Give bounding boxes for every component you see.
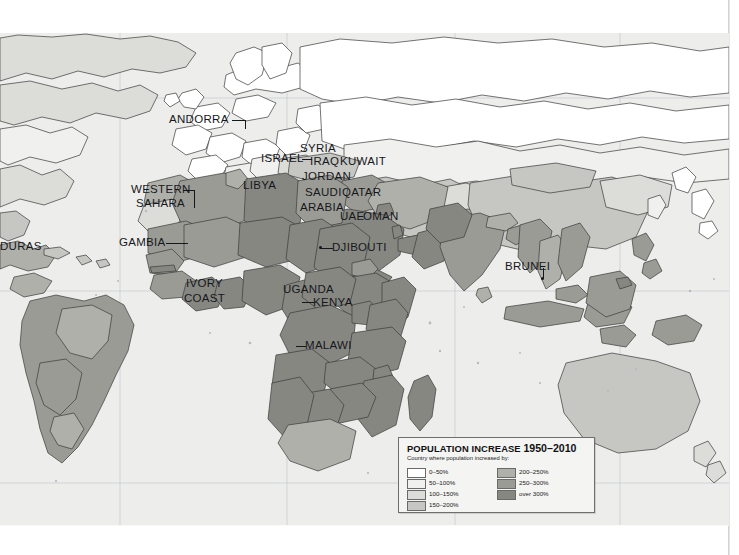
syria-label: SYRIA [300, 142, 336, 154]
western-sahara-label: WESTERN [131, 183, 191, 195]
oman-label: OMAN [363, 210, 399, 222]
legend-title: POPULATION INCREASE 1950–2010 [407, 442, 576, 454]
israel-label: ISRAEL [261, 152, 304, 164]
legend-swatch-over-300 [497, 490, 516, 500]
qatar-label: QATAR [342, 186, 381, 198]
legend-label-150-200: 150–200% [429, 501, 459, 509]
legend-swatch-0-50 [407, 468, 426, 478]
arabia-label: ARABIA [300, 201, 344, 213]
kenya-label: KENYA [313, 296, 353, 308]
legend-label-100-150: 100–150% [429, 490, 459, 498]
population-increase-legend: POPULATION INCREASE 1950–2010 Country wh… [398, 437, 595, 513]
legend-label-200-250: 200–250% [519, 468, 549, 476]
ivory-coast-label-2: COAST [184, 292, 225, 304]
djibouti-label: DJIBOUTI [332, 241, 387, 253]
honduras-label: DURAS [0, 240, 42, 252]
iraq-label: IRAQ [310, 155, 339, 167]
saudi-label: SAUDI [305, 186, 342, 198]
legend-label-50-100: 50–100% [429, 479, 455, 487]
malawi-leader [296, 346, 306, 347]
libya-label: LIBYA [243, 179, 276, 191]
western-sahara-label-2: SAHARA [136, 197, 185, 209]
gambia-leader [166, 243, 188, 244]
andorra-leader [232, 120, 246, 121]
djibouti-leader [321, 248, 333, 249]
legend-swatch-150-200 [407, 501, 426, 511]
brunei-dot [541, 277, 544, 280]
gambia-label: GAMBIA [119, 236, 166, 248]
djibouti-dot [319, 246, 322, 249]
legend-swatch-50-100 [407, 479, 426, 489]
andorra-label: ANDORRA [169, 113, 229, 125]
kuwait-label: KUWAIT [340, 155, 386, 167]
legend-label-0-50: 0–50% [429, 468, 448, 476]
legend-label-250-300: 250–300% [519, 479, 549, 487]
jordan-label: JORDAN [302, 170, 351, 182]
andorra-leader-v [245, 120, 246, 129]
legend-title-main: POPULATION INCREASE [407, 443, 523, 454]
legend-title-years: 1950–2010 [523, 442, 576, 454]
kenya-leader [302, 302, 314, 303]
legend-swatch-100-150 [407, 490, 426, 500]
malawi-label: MALAWI [305, 339, 352, 351]
legend-swatch-200-250 [497, 468, 516, 478]
legend-subtitle: Country where population increased by: [407, 455, 509, 461]
world-map: .c { stroke:#3a3a3a; stroke-width:0.7; s… [0, 33, 729, 525]
western-sahara-leader-v [194, 190, 195, 208]
legend-swatch-250-300 [497, 479, 516, 489]
uganda-label: UGANDA [283, 283, 334, 295]
atlas-page: .c { stroke:#3a3a3a; stroke-width:0.7; s… [0, 0, 739, 555]
uae-label: UAE [340, 210, 365, 222]
ivory-coast-label: IVORY [186, 277, 223, 289]
legend-label-over-300: over 300% [519, 490, 549, 498]
